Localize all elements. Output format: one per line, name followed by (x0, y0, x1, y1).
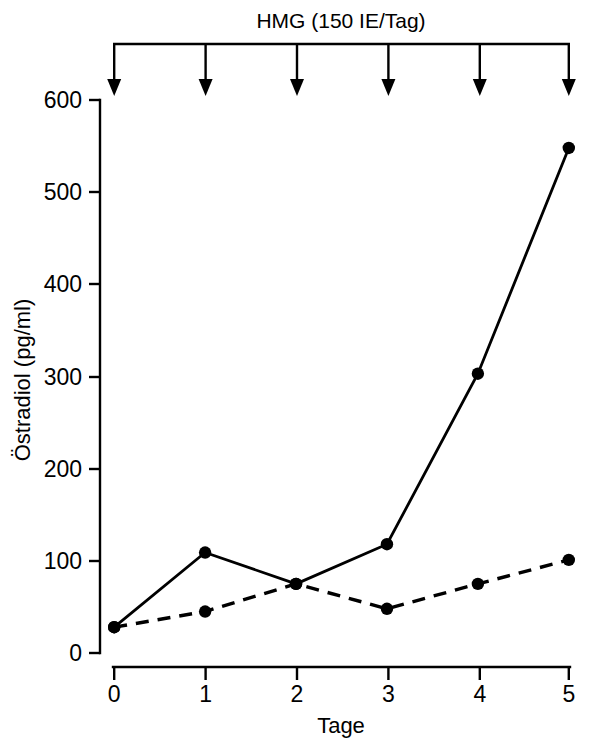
y-tick-label-100: 100 (44, 548, 82, 574)
y-tick-label-600: 600 (44, 87, 82, 113)
treatment-arrow-day-2 (290, 44, 304, 96)
plot-series-layer (108, 142, 575, 634)
y-axis-title: Östradiol (pg/ml) (10, 299, 35, 462)
y-tick-label-500: 500 (44, 179, 82, 205)
treatment-arrow-group (107, 44, 576, 96)
data-point (381, 603, 393, 615)
data-point (472, 578, 484, 590)
y-axis-ticks (89, 100, 100, 653)
data-point (381, 538, 393, 550)
x-tick-label-3: 3 (382, 681, 395, 707)
y-tick-label-300: 300 (44, 364, 82, 390)
x-axis-tick-labels: 0 1 2 3 4 5 (108, 681, 575, 707)
data-point (108, 621, 120, 633)
treatment-arrow-day-1 (199, 44, 213, 96)
treatment-arrow-day-5 (562, 44, 576, 96)
x-axis-ticks (114, 667, 569, 680)
data-point (563, 142, 575, 154)
arrow-down-icon (290, 79, 304, 96)
arrow-down-icon (562, 79, 576, 96)
arrow-down-icon (473, 79, 487, 96)
data-point (199, 546, 211, 558)
treatment-label: HMG (150 IE/Tag) (256, 9, 425, 32)
arrow-down-icon (381, 79, 395, 96)
data-point (290, 578, 302, 590)
x-tick-label-4: 4 (473, 681, 486, 707)
treatment-arrow-day-3 (381, 44, 395, 96)
y-axis-tick-labels: 600 500 400 300 200 100 0 (44, 87, 82, 666)
x-tick-label-0: 0 (108, 681, 121, 707)
chart-page: HMG (150 IE/Tag) (0, 0, 595, 739)
series-dashed (108, 554, 575, 634)
x-tick-label-1: 1 (199, 681, 212, 707)
series-solid (108, 142, 575, 634)
arrow-down-icon (199, 79, 213, 96)
treatment-arrow-day-0 (107, 44, 121, 96)
y-tick-label-0: 0 (69, 640, 82, 666)
estradiol-line-chart: HMG (150 IE/Tag) (0, 0, 595, 739)
x-tick-label-2: 2 (291, 681, 304, 707)
data-point (563, 554, 575, 566)
arrow-down-icon (107, 79, 121, 96)
data-point (199, 605, 211, 617)
series-line-solid (114, 148, 569, 627)
y-tick-label-200: 200 (44, 456, 82, 482)
x-axis-title: Tage (317, 713, 365, 738)
y-tick-label-400: 400 (44, 271, 82, 297)
treatment-arrow-day-4 (473, 44, 487, 96)
data-point (472, 368, 484, 380)
x-tick-label-5: 5 (562, 681, 575, 707)
